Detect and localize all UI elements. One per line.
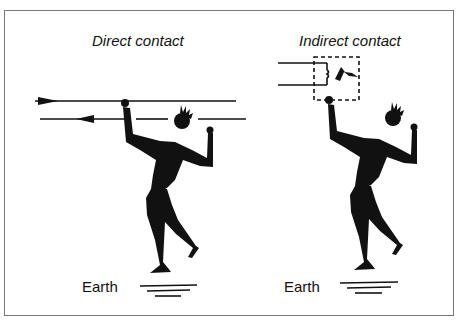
- arrow-left-icon: [76, 115, 94, 123]
- arrow-right-icon: [38, 97, 58, 105]
- diagram-canvas: [0, 0, 461, 334]
- fault-lightning-icon: [335, 67, 358, 81]
- earth-label-right: Earth: [284, 278, 320, 295]
- earth-ground-symbol-left: [140, 285, 197, 296]
- direct-contact-wires: [35, 101, 246, 119]
- panel-title-indirect: Indirect contact: [299, 32, 401, 49]
- earth-ground-symbol-right: [340, 282, 398, 293]
- panel-title-direct: Direct contact: [92, 32, 184, 49]
- indirect-contact-wires: [278, 63, 329, 85]
- person-direct-figure: [121, 99, 214, 273]
- earth-label-left: Earth: [82, 278, 118, 295]
- person-indirect-figure: [325, 96, 418, 270]
